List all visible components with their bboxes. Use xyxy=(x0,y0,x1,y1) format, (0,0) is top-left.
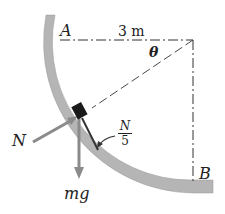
friction-numerator: N xyxy=(120,119,131,133)
label-normal-force: N xyxy=(12,133,26,149)
diagram-canvas: A 3 m θ N N 5 B mg xyxy=(0,0,225,214)
label-weight: mg xyxy=(64,186,89,202)
label-radius: 3 m xyxy=(118,24,145,38)
label-point-a: A xyxy=(60,23,72,39)
circular-track xyxy=(44,15,213,193)
radial-line-to-block xyxy=(92,40,193,108)
label-point-b: B xyxy=(199,166,211,182)
diagram-graphics xyxy=(0,0,225,214)
friction-denominator: 5 xyxy=(121,134,129,148)
label-friction-fraction: N 5 xyxy=(118,120,132,147)
weight-arrowhead xyxy=(74,167,84,179)
normal-force-arrow xyxy=(33,120,72,142)
label-angle: θ xyxy=(149,45,158,59)
